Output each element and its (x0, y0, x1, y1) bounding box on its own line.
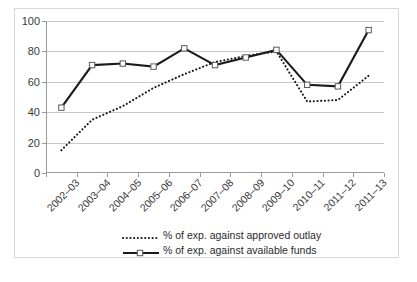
data-point-marker (212, 62, 217, 67)
x-axis-label-2007-08: 2007–08 (199, 177, 235, 213)
legend-dotted-line-icon (122, 230, 160, 242)
series-line-1 (61, 30, 368, 108)
data-point-marker (274, 47, 279, 52)
legend-label: % of exp. against available funds (163, 245, 317, 256)
y-axis-label-100: 100 (22, 16, 40, 27)
data-point-marker (366, 27, 371, 32)
data-point-marker (304, 82, 309, 87)
chart-legend: % of exp. against approved outlay% of ex… (46, 228, 384, 258)
x-axis-label-2006-07: 2006–07 (168, 177, 204, 213)
data-point-marker (89, 62, 94, 67)
legend-solid-line-square-icon (122, 245, 160, 257)
x-axis-label-2004-05: 2004–05 (107, 177, 143, 213)
y-axis-labels: 020406080100 (8, 21, 40, 173)
data-point-marker (120, 61, 125, 66)
y-axis-label-80: 80 (28, 46, 40, 57)
legend-item-0: % of exp. against approved outlay (46, 228, 384, 243)
data-point-marker (59, 105, 64, 110)
series-plot (46, 21, 384, 173)
x-axis-label-2009-10: 2009–10 (260, 177, 296, 213)
data-point-marker (151, 64, 156, 69)
y-axis-label-20: 20 (28, 137, 40, 148)
x-axis-label-2003-04: 2003–04 (76, 177, 112, 213)
y-axis-label-0: 0 (34, 168, 40, 179)
x-axis-label-2008-09: 2008–09 (230, 177, 266, 213)
x-axis-label-2005-06: 2005–06 (138, 177, 174, 213)
x-axis-label-2002-03: 2002–03 (45, 177, 81, 213)
y-axis-label-60: 60 (28, 76, 40, 87)
x-tick-11 (384, 173, 385, 177)
x-axis-labels: 2002–032003–042004–052005–062006–072007–… (46, 175, 384, 227)
line-chart: 020406080100 2002–032003–042004–052005–0… (0, 0, 417, 282)
data-point-marker (182, 46, 187, 51)
legend-item-1: % of exp. against available funds (46, 243, 384, 258)
legend-label: % of exp. against approved outlay (163, 230, 321, 241)
x-axis-label-2011-12: 2011–12 (322, 177, 358, 213)
y-axis-label-40: 40 (28, 107, 40, 118)
x-axis-label-2011-13: 2011–13 (352, 177, 388, 213)
data-point-marker (335, 84, 340, 89)
data-point-marker (243, 55, 248, 60)
x-axis-label-2010-11: 2010–11 (291, 177, 327, 213)
plot-area (46, 21, 384, 173)
